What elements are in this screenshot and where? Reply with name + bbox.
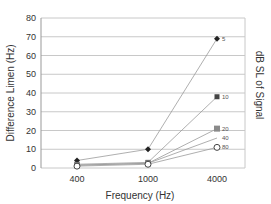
right-axis-label: dB SL of Signal (254, 51, 265, 120)
data-point-marker (214, 144, 220, 150)
data-point-marker (74, 163, 80, 169)
y-tick-label: 40 (26, 88, 36, 98)
series-label-20: 20 (222, 126, 229, 132)
series-line-5 (77, 39, 217, 161)
x-tick-label: 400 (69, 174, 84, 184)
x-axis-ticks: 40010004000 (69, 174, 227, 184)
data-point-marker (145, 146, 151, 152)
y-axis-ticks: 01020304050607080 (26, 13, 36, 173)
y-tick-label: 10 (26, 144, 36, 154)
series-label-40: 40 (222, 135, 229, 141)
series-label-10: 10 (222, 94, 229, 100)
y-tick-label: 80 (26, 13, 36, 23)
data-point-marker (214, 126, 220, 132)
chart: 01020304050607080 40010004000 510204080 … (0, 0, 271, 204)
y-tick-label: 20 (26, 126, 36, 136)
series-labels: 510204080 (222, 36, 229, 151)
y-tick-label: 50 (26, 69, 36, 79)
y-tick-label: 60 (26, 51, 36, 61)
data-point-marker (215, 94, 220, 99)
series-label-80: 80 (222, 144, 229, 150)
y-tick-label: 0 (31, 163, 36, 173)
x-tick-label: 4000 (207, 174, 227, 184)
data-point-marker (145, 161, 151, 167)
y-tick-label: 30 (26, 107, 36, 117)
x-tick-label: 1000 (138, 174, 158, 184)
y-tick-label: 70 (26, 32, 36, 42)
y-axis-label: Difference Limen (Hz) (5, 44, 16, 141)
series-line-20 (77, 129, 217, 166)
x-axis-label: Frequency (Hz) (106, 190, 175, 201)
